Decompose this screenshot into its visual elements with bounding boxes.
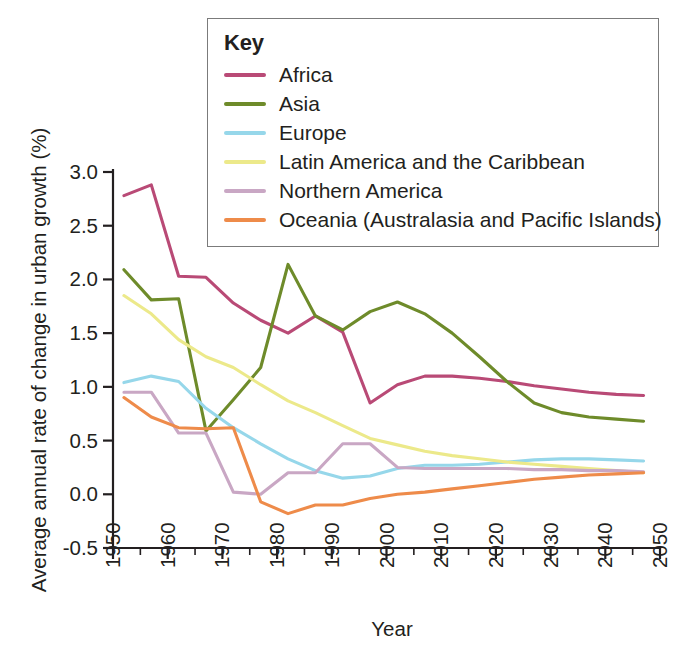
series-line-latin-america [124, 296, 644, 473]
x-tick-label: 2030 [539, 522, 562, 568]
y-tick-label: 2.5 [70, 214, 99, 237]
legend-title: Key [224, 32, 658, 54]
legend-color-swatch [224, 102, 266, 106]
legend-color-swatch [224, 218, 266, 222]
y-tick-labels: -0.50.00.51.01.52.02.53.0 [63, 160, 98, 559]
legend: Key AfricaAsiaEuropeLatin America and th… [207, 18, 659, 247]
legend-item: Asia [222, 89, 658, 118]
legend-color-swatch [224, 189, 266, 193]
y-tick-label: 0.5 [70, 429, 99, 452]
y-axis [103, 170, 113, 548]
x-tick-label: 2050 [648, 522, 671, 568]
y-tick-label: -0.5 [63, 536, 98, 559]
legend-item-label: Northern America [279, 180, 442, 201]
legend-item-label: Asia [279, 93, 320, 114]
legend-item: Latin America and the Caribbean [222, 147, 658, 176]
x-tick-label: 2010 [429, 522, 452, 568]
legend-item-label: Europe [279, 122, 347, 143]
legend-item-label: Africa [279, 64, 333, 85]
x-tick-label: 1960 [156, 522, 179, 568]
x-tick-labels: 1950196019701980199020002010202020302040… [101, 522, 671, 568]
legend-item: Oceania (Australasia and Pacific Islands… [222, 205, 658, 234]
x-tick-label: 2040 [593, 522, 616, 568]
y-tick-label: 0.0 [70, 482, 99, 505]
legend-item: Northern America [222, 176, 658, 205]
x-tick-label: 1980 [265, 522, 288, 568]
y-tick-label: 2.0 [70, 267, 99, 290]
legend-color-swatch [224, 131, 266, 135]
y-tick-label: 3.0 [70, 160, 99, 183]
x-tick-label: 1950 [101, 522, 124, 568]
legend-item-label: Latin America and the Caribbean [279, 151, 585, 172]
legend-item-label: Oceania (Australasia and Pacific Islands… [279, 209, 662, 230]
legend-entries: AfricaAsiaEuropeLatin America and the Ca… [222, 60, 658, 234]
legend-item: Africa [222, 60, 658, 89]
x-tick-label: 2000 [375, 522, 398, 568]
legend-item: Europe [222, 118, 658, 147]
x-tick-label: 1990 [320, 522, 343, 568]
x-tick-label: 1970 [210, 522, 233, 568]
chart-container: -0.50.00.51.01.52.02.53.0 19501960197019… [0, 0, 677, 649]
legend-color-swatch [224, 160, 266, 164]
y-axis-title: Average annual rate of change in urban g… [27, 128, 50, 593]
legend-color-swatch [224, 73, 266, 77]
y-tick-label: 1.0 [70, 375, 99, 398]
x-axis-title: Year [371, 617, 413, 640]
y-tick-label: 1.5 [70, 321, 99, 344]
x-tick-label: 2020 [484, 522, 507, 568]
